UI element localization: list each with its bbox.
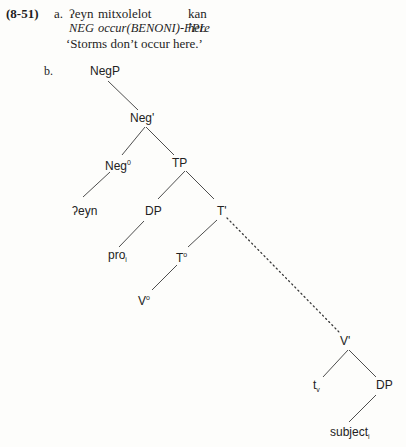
edge-tp-dp: [158, 171, 185, 199]
node-neg0-base: Neg: [105, 159, 127, 173]
node-negbar: Neg': [130, 111, 154, 125]
node-subject-base: subject: [330, 425, 368, 439]
node-dp-complement: DP: [376, 378, 393, 392]
node-dp-spec-tp: DP: [145, 204, 162, 218]
node-tv: tv: [313, 378, 320, 397]
node-v0-base: V: [138, 294, 146, 308]
node-neg0-sup: 0: [127, 159, 131, 166]
edge-tbar-t0: [188, 220, 217, 247]
edge-dp-pro: [119, 221, 144, 247]
node-subject: subjecti: [330, 425, 370, 444]
edge-negbar-tp: [146, 127, 174, 155]
node-tv-sub: v: [316, 386, 320, 393]
node-v0: Vo: [138, 291, 150, 308]
node-subject-sub: i: [368, 433, 370, 440]
edge-t0-v0: [152, 265, 177, 290]
tree-edges: [0, 0, 406, 447]
edge-dp-subject: [349, 395, 376, 422]
node-vbar: V': [340, 334, 350, 348]
node-t0: To: [176, 248, 187, 265]
edge-vbar-tv: [323, 350, 348, 377]
node-t0-sup: o: [183, 251, 187, 258]
edge-tbar-vbar-dotted: [227, 218, 339, 332]
node-negp: NegP: [90, 64, 120, 78]
edge-negbar-neg0: [122, 127, 145, 155]
node-neg0: Neg0: [105, 156, 131, 173]
node-tbar: T': [217, 204, 227, 218]
node-pro-base: pro: [108, 248, 125, 262]
node-eyn: ʔeyn: [72, 204, 97, 218]
edge-negp-negbar: [108, 81, 138, 110]
edge-vbar-dp: [349, 350, 376, 377]
node-tp: TP: [172, 156, 187, 170]
node-pro: proi: [108, 248, 127, 267]
edge-neg0-eyn: [83, 172, 110, 197]
node-v0-sup: o: [146, 294, 150, 301]
edge-tp-tbar: [186, 171, 214, 199]
node-pro-sub: i: [125, 256, 127, 263]
